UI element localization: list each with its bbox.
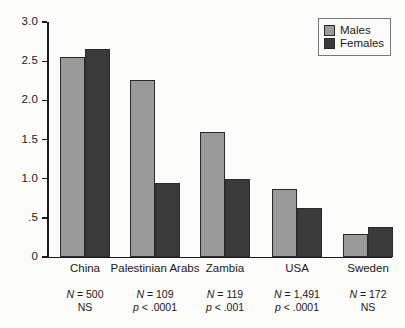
- y-axis-tick-label: 0: [10, 251, 38, 263]
- annotation-note: N = 172NS: [308, 288, 405, 314]
- legend-label-males: Males: [340, 25, 371, 37]
- y-axis-tick: [42, 61, 47, 62]
- y-axis-tick: [42, 100, 47, 101]
- bar-females: [297, 208, 322, 257]
- y-axis-tick-label: 1.5: [10, 134, 38, 146]
- y-axis-tick: [42, 217, 47, 218]
- legend-item-males: Males: [324, 25, 384, 37]
- bar-group: [130, 22, 180, 257]
- bar-males: [130, 80, 155, 257]
- y-axis-tick-label: 1.0: [10, 173, 38, 185]
- legend-item-females: Females: [324, 38, 384, 50]
- legend-label-females: Females: [340, 38, 384, 50]
- plot-area: [48, 22, 392, 257]
- bar-group: [60, 22, 110, 257]
- bar-females: [85, 49, 110, 257]
- bar-females: [155, 183, 180, 257]
- bar-males: [60, 57, 85, 257]
- bar-males: [343, 234, 368, 257]
- legend-swatch-males-icon: [324, 25, 335, 36]
- bar-group: [272, 22, 322, 257]
- x-axis-label: Sweden: [298, 262, 405, 275]
- y-axis-tick: [42, 139, 47, 140]
- bar-males: [200, 132, 225, 257]
- legend-swatch-females-icon: [324, 38, 335, 49]
- y-axis-tick-label: .5: [10, 212, 38, 224]
- annotation-sample-size: N = 172: [308, 288, 405, 301]
- y-axis-tick-label: 3.0: [10, 16, 38, 28]
- bar-females: [368, 227, 393, 257]
- y-axis-tick-label: 2.5: [10, 55, 38, 67]
- annotation-significance: NS: [308, 301, 405, 314]
- legend: Males Females: [318, 18, 391, 56]
- y-axis-tick: [42, 178, 47, 179]
- bar-group: [200, 22, 250, 257]
- bar-chart: 3.02.52.01.51.0.50 ChinaPalestinian Arab…: [0, 0, 405, 328]
- bar-group: [343, 22, 393, 257]
- y-axis-tick: [42, 256, 47, 257]
- y-axis-tick-label: 2.0: [10, 94, 38, 106]
- bar-females: [225, 179, 250, 257]
- y-axis-tick: [42, 21, 47, 22]
- bar-males: [272, 189, 297, 257]
